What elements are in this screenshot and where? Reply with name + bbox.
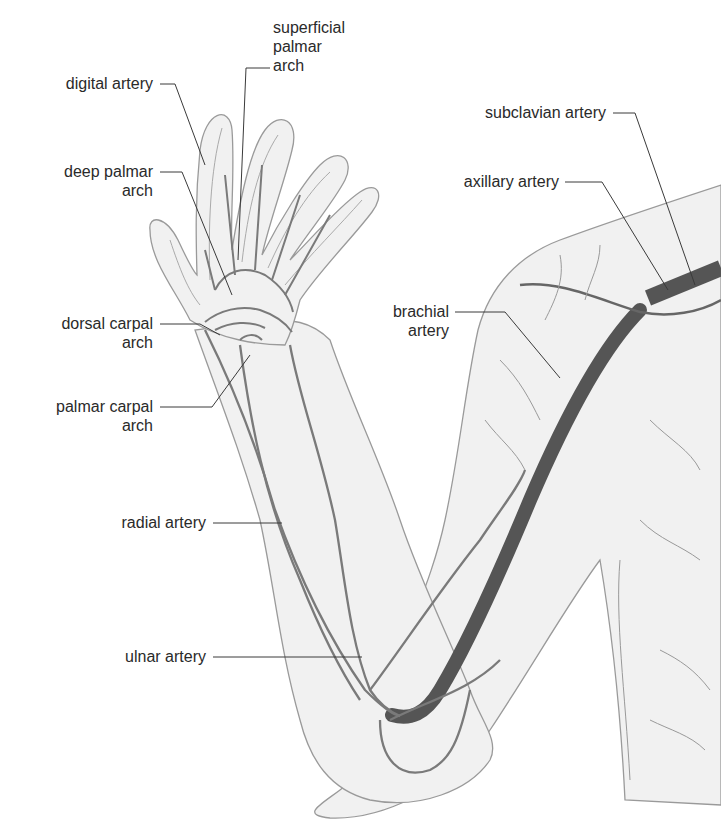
label-radial-artery: radial artery xyxy=(84,513,206,532)
label-subclavian-artery: subclavian artery xyxy=(440,103,606,122)
label-deep-palmar-arch: deep palmar arch xyxy=(33,162,153,200)
label-digital-artery: digital artery xyxy=(37,74,153,93)
leader-digital-artery xyxy=(160,84,205,165)
label-axillary-artery: axillary artery xyxy=(425,172,559,191)
hand-shape xyxy=(150,115,379,345)
label-brachial-artery: brachial artery xyxy=(365,302,449,340)
label-palmar-carpal-arch: palmar carpal arch xyxy=(14,397,153,435)
label-dorsal-carpal-arch: dorsal carpal arch xyxy=(20,314,153,352)
label-ulnar-artery: ulnar artery xyxy=(92,647,206,666)
label-superficial-palmar-arch: superficial palmar arch xyxy=(273,18,345,75)
